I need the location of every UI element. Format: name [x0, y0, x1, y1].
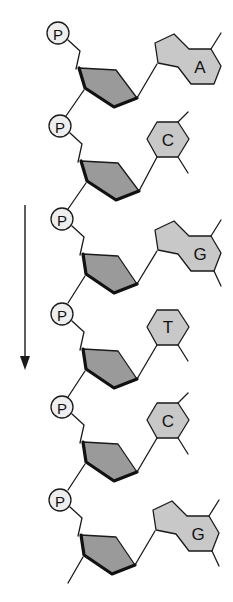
phosphate-4: P: [51, 303, 73, 325]
phosphate-2: P: [49, 115, 71, 137]
sugar-4: [83, 349, 137, 388]
base-label: T: [163, 318, 173, 337]
nucleotide-5: P C: [51, 393, 189, 490]
phosphate-5: P: [51, 396, 73, 418]
nucleotide-3: P G: [51, 208, 221, 303]
phosphate-1: P: [47, 22, 69, 44]
nucleotide-2: P C: [49, 112, 189, 209]
chain-tail: [68, 557, 83, 583]
phosphate-label: P: [57, 212, 67, 229]
base-label: G: [193, 245, 206, 264]
base-purine-6: G: [153, 500, 219, 566]
base-label: A: [194, 58, 206, 77]
base-label: C: [162, 131, 174, 150]
phosphate-label: P: [53, 26, 63, 43]
sugar-3: [83, 254, 137, 293]
phosphate-3: P: [51, 208, 73, 230]
dna-strand-diagram: P A P C: [0, 0, 233, 602]
base-purine-1: A: [155, 33, 221, 84]
sugar-6: [81, 535, 135, 574]
nucleotide-6: P G: [49, 489, 219, 583]
sugar-2: [81, 161, 139, 200]
base-purine-3: G: [155, 220, 221, 286]
phosphate-label: P: [57, 307, 67, 324]
sugar-5: [83, 442, 137, 481]
phosphate-label: P: [57, 400, 67, 417]
direction-arrow: [20, 205, 30, 370]
base-pyrimidine-4: T: [147, 310, 189, 361]
nucleotide-4: P T: [51, 303, 189, 397]
glycosidic-bond: [137, 64, 157, 98]
phosphate-label: P: [55, 119, 65, 136]
base-label: G: [191, 525, 204, 544]
sugar-1: [79, 68, 137, 107]
phosphate-6: P: [49, 489, 71, 511]
base-label: C: [162, 412, 174, 431]
phosphate-label: P: [55, 493, 65, 510]
phosphodiester-bond: [68, 40, 80, 69]
backbone-bond: [66, 90, 84, 116]
nucleotide-1: P A: [47, 22, 221, 116]
